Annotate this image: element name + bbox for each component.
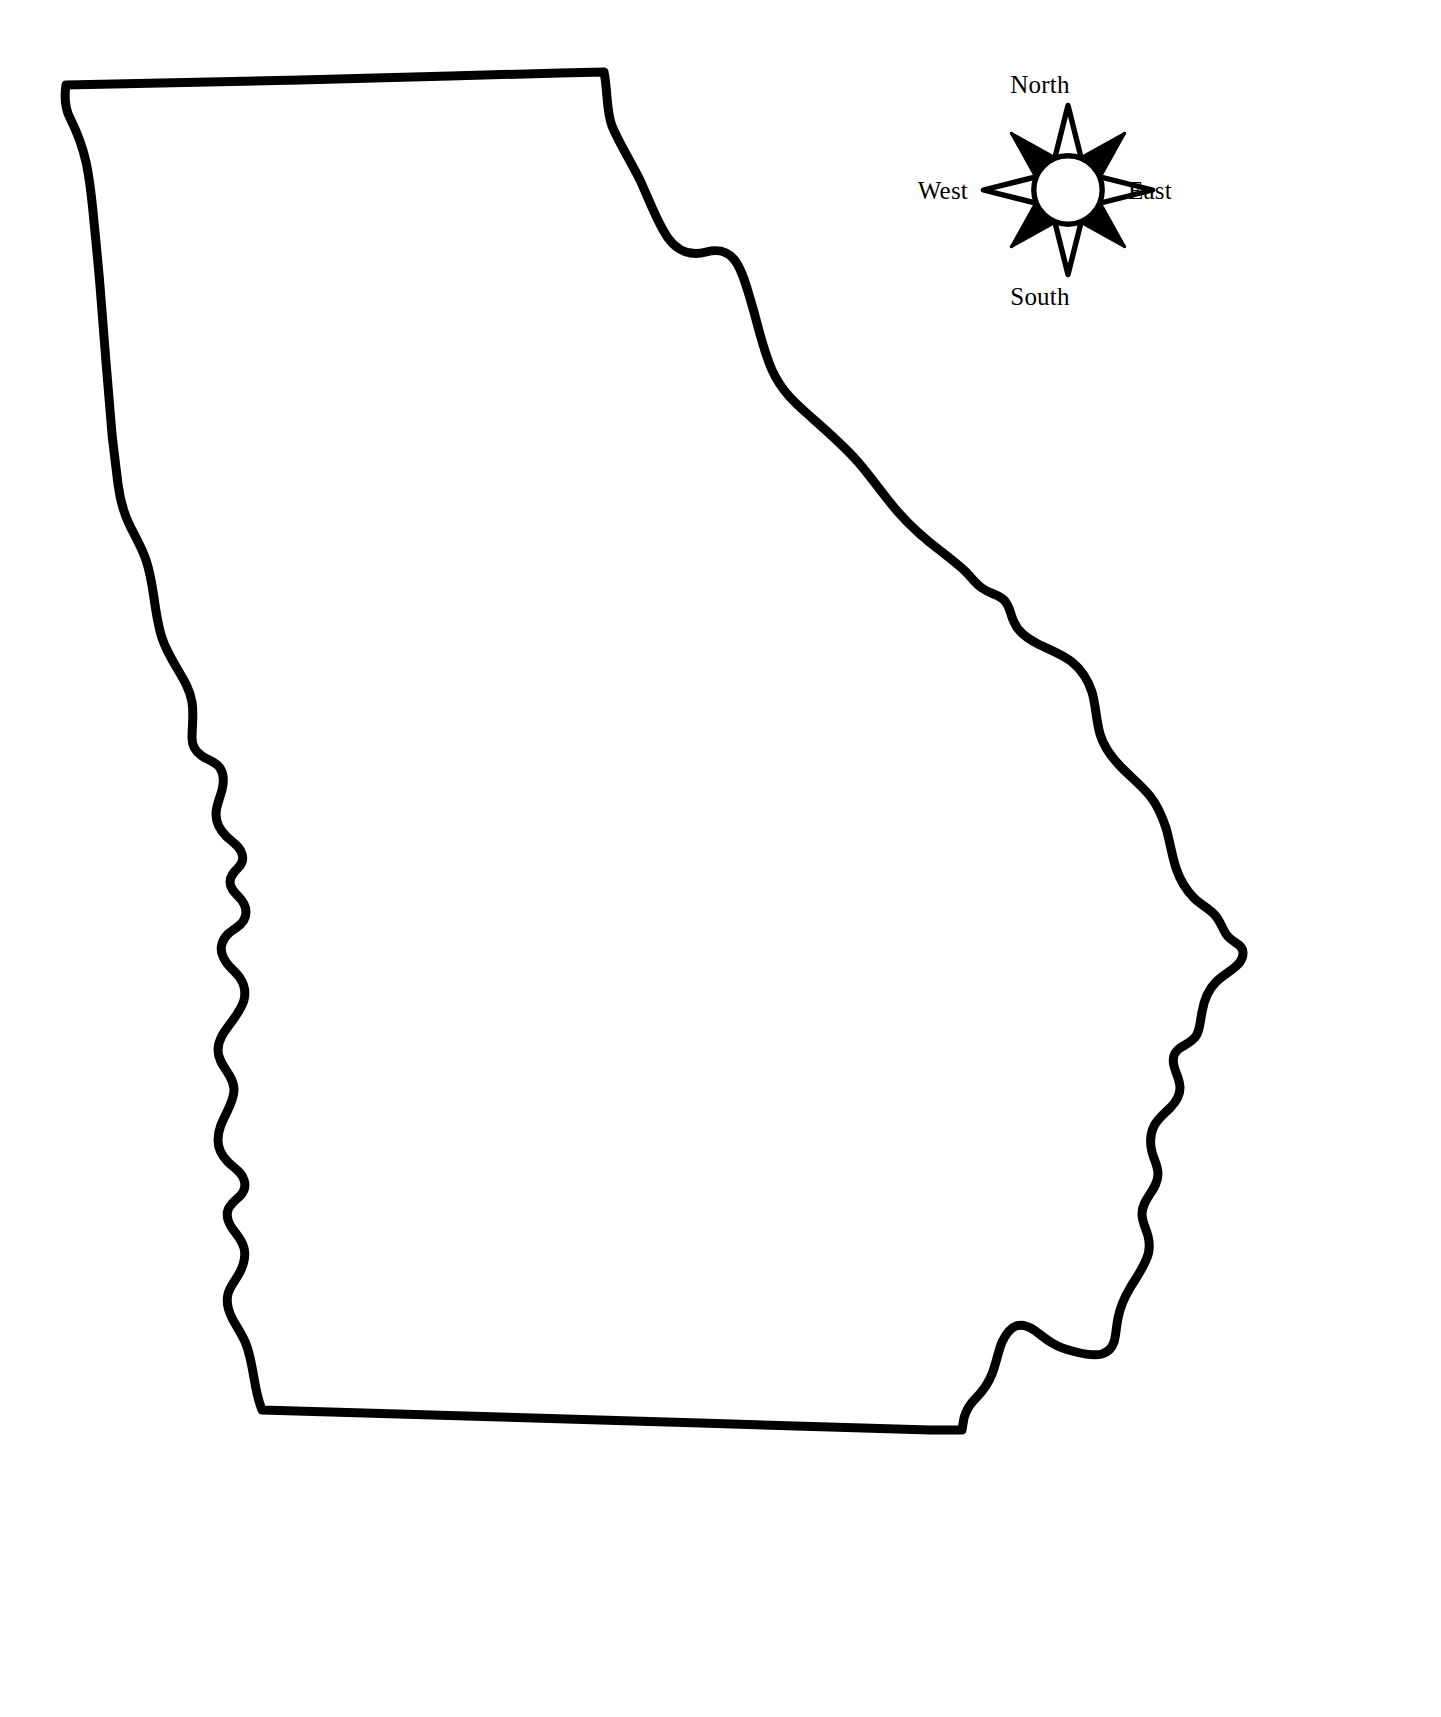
compass-label-north: North — [880, 72, 1200, 97]
georgia-outline-svg — [0, 0, 1441, 1717]
compass-label-south: South — [880, 284, 1200, 309]
georgia-map-figure — [0, 0, 1441, 1717]
compass-hub-circle — [1034, 156, 1102, 224]
page-canvas: North South West East — [0, 0, 1441, 1717]
compass-label-west: West — [888, 178, 968, 203]
compass-rose: North South West East — [880, 58, 1200, 323]
compass-label-east: East — [1128, 178, 1208, 203]
